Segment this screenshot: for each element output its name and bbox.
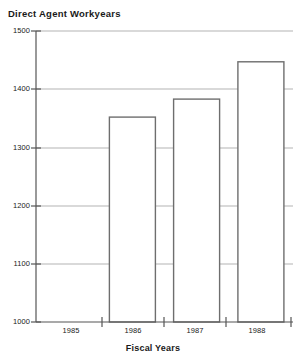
x-axis-title: Fiscal Years <box>0 343 306 353</box>
bar-chart: Direct Agent Workyears <box>0 0 306 359</box>
bar-1986 <box>174 99 220 322</box>
ytick-label-1500: 1500 <box>0 27 30 35</box>
ytick-label-1300: 1300 <box>0 144 30 152</box>
xtick-label-1987: 1987 <box>165 327 225 335</box>
ytick-label-1000: 1000 <box>0 318 30 326</box>
ytick-label-1200: 1200 <box>0 202 30 210</box>
xtick-label-1985: 1985 <box>41 327 101 335</box>
plot-area <box>0 0 306 359</box>
xtick-label-1988: 1988 <box>227 327 287 335</box>
bar-1987 <box>238 62 284 322</box>
bars <box>109 62 284 322</box>
bar-1985 <box>109 117 155 322</box>
y-axis <box>31 31 41 322</box>
ytick-label-1100: 1100 <box>0 260 30 268</box>
xtick-label-1986: 1986 <box>103 327 163 335</box>
ytick-label-1400: 1400 <box>0 85 30 93</box>
